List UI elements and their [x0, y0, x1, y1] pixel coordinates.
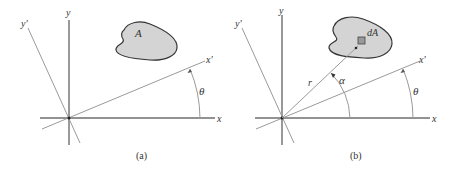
- caption-a: (a): [136, 150, 147, 162]
- panel-b: dA r α x y x' y' θ (b): [234, 5, 437, 162]
- y-prime-axis: [242, 28, 294, 143]
- x-prime-label: x': [205, 54, 213, 65]
- y-label: y: [278, 5, 284, 16]
- theta-arc: [403, 69, 413, 118]
- area-element-label: dA: [367, 27, 379, 38]
- x-label: x: [216, 113, 222, 124]
- y-label: y: [65, 7, 71, 18]
- y-prime-axis: [28, 28, 80, 143]
- rotated-axes-figure: A x y x' y' θ (a) dA r α x y x' y' θ (b): [0, 0, 457, 174]
- area-element-square: [358, 37, 365, 44]
- origin-dot: [68, 117, 71, 120]
- x-prime-axis: [256, 61, 420, 129]
- x-label: x: [431, 113, 437, 124]
- area-a-label: A: [134, 27, 142, 39]
- y-prime-label: y': [234, 18, 242, 29]
- vector-tip-dot: [355, 47, 358, 50]
- x-prime-axis: [42, 61, 205, 129]
- area-a-shape: [116, 22, 177, 60]
- r-vector: [282, 46, 358, 118]
- alpha-label: α: [339, 74, 345, 86]
- theta-label: θ: [199, 85, 205, 97]
- panel-a: A x y x' y' θ (a): [20, 7, 222, 162]
- theta-label: θ: [413, 85, 419, 97]
- x-prime-label: x': [418, 54, 426, 65]
- caption-b: (b): [350, 150, 362, 162]
- y-prime-label: y': [20, 18, 28, 29]
- r-label: r: [308, 77, 312, 88]
